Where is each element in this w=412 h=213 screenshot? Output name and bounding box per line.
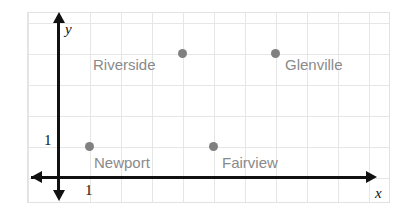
grid-line-vertical <box>214 13 215 202</box>
y-axis-line <box>57 18 60 196</box>
data-point-riverside <box>178 49 187 58</box>
y-axis-tick-label-1: 1 <box>44 133 52 148</box>
x-axis-line <box>31 176 369 179</box>
grid-line-horizontal <box>28 54 389 55</box>
grid-line-vertical <box>307 13 308 202</box>
y-axis-arrow-up-icon <box>53 12 65 23</box>
x-axis-arrow-right-icon <box>366 171 377 183</box>
data-point-fairview <box>209 142 218 151</box>
grid-line-vertical <box>28 13 29 202</box>
grid-line-vertical <box>245 13 246 202</box>
grid-line-horizontal <box>28 116 389 117</box>
grid-line-horizontal <box>28 85 389 86</box>
plot-panel <box>27 12 390 203</box>
x-axis-arrow-left-icon <box>31 171 42 183</box>
grid-line-vertical <box>121 13 122 202</box>
data-point-glenville <box>271 49 280 58</box>
data-point-label-fairview: Fairview <box>222 155 278 170</box>
grid-line-horizontal <box>28 23 389 24</box>
grid-line-vertical <box>276 13 277 202</box>
data-point-label-riverside: Riverside <box>93 57 156 72</box>
x-axis-tick-label-1: 1 <box>85 183 93 198</box>
grid-line-vertical <box>183 13 184 202</box>
data-point-newport <box>85 142 94 151</box>
data-point-label-glenville: Glenville <box>285 57 343 72</box>
coordinate-plane-figure: y x 1 1 Newport Fairview Riverside Glenv… <box>0 0 412 213</box>
data-point-label-newport: Newport <box>94 155 150 170</box>
x-axis-label: x <box>375 186 382 201</box>
y-axis-label: y <box>65 22 72 37</box>
grid-line-vertical <box>338 13 339 202</box>
grid-line-vertical <box>152 13 153 202</box>
y-axis-arrow-down-icon <box>53 190 65 201</box>
grid-line-vertical <box>90 13 91 202</box>
